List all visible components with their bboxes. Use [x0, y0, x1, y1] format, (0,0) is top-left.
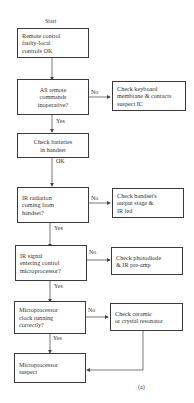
node-text: Microprocessor clock running correctly? [19, 306, 58, 328]
edge-label-yes: Yes [56, 118, 65, 125]
start-label: Start [45, 18, 56, 25]
node-remote-faulty: Remote control faulty-local controls OK [17, 28, 89, 58]
decision-ir-signal-entering: IR signal entering control microprocesso… [15, 245, 87, 281]
edge-label-yes: Yes [53, 335, 62, 342]
node-text: Remote control faulty-local controls OK [22, 32, 60, 54]
decision-all-commands-inoperative: All remote commands inoperative? [17, 79, 89, 115]
edge-label-no: No [91, 195, 98, 202]
action-check-resonator: Check ceramic or crystal resonator [110, 303, 183, 331]
decision-clock-running: Microprocessor clock running correctly? [14, 301, 86, 334]
action-check-output-stage: Check handset's output stage & IR led [112, 188, 184, 218]
node-microprocessor-suspect: Microprocessor suspect [14, 353, 86, 383]
edge-label-no: No [89, 249, 96, 256]
node-text: Microprocessor suspect [19, 361, 58, 376]
node-text: Check batteries in handset [34, 138, 72, 153]
node-text: Check photodiode & IR pre-amp [116, 254, 161, 269]
decision-ir-radiation: IR radiation coming from handset? [17, 187, 89, 223]
edge-label-no: No [88, 307, 95, 314]
edge-label-no: No [91, 89, 98, 96]
action-check-photodiode: Check photodiode & IR pre-amp [111, 247, 183, 275]
node-text: IR radiation coming from handset? [22, 194, 54, 216]
node-text: Check ceramic or crystal resonator [115, 310, 163, 325]
node-check-batteries: Check batteries in handset [17, 133, 89, 158]
edge-label-yes: Yes [54, 283, 63, 290]
node-text: All remote commands inoperative? [38, 86, 69, 108]
action-check-keyboard: Check keyboard membrane & contacts suspe… [112, 81, 186, 111]
figure-caption: (a) [138, 384, 145, 391]
node-text: Check keyboard membrane & contacts suspe… [117, 85, 171, 107]
node-text: IR signal entering control microprocesso… [20, 252, 61, 274]
edge-label-yes: Yes [54, 225, 63, 232]
edge-label-ok: OK [56, 158, 65, 165]
node-text: Check handset's output stage & IR led [117, 192, 157, 214]
